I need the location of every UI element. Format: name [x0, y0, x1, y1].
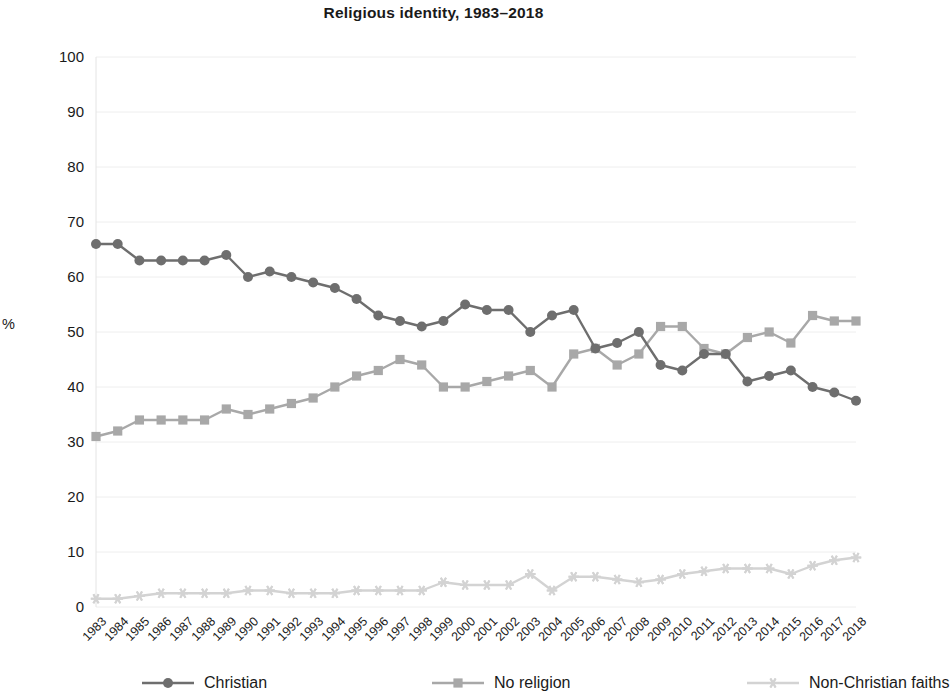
star-marker-icon — [699, 567, 709, 576]
star-marker-icon — [308, 589, 318, 598]
square-marker-icon — [374, 366, 383, 375]
star-marker-icon — [745, 673, 801, 693]
square-marker-icon — [634, 349, 643, 358]
star-marker-icon — [395, 586, 405, 595]
circle-marker-icon — [156, 256, 166, 266]
square-marker-icon — [178, 415, 187, 424]
circle-marker-icon — [677, 366, 687, 376]
circle-marker-icon — [200, 256, 210, 266]
square-marker-icon — [200, 415, 209, 424]
star-marker-icon — [482, 580, 492, 589]
star-marker-icon — [156, 589, 166, 598]
circle-marker-icon — [221, 250, 231, 260]
circle-marker-icon — [482, 305, 492, 315]
series-line — [96, 558, 856, 599]
square-marker-icon — [743, 333, 752, 342]
star-marker-icon — [677, 569, 687, 578]
star-marker-icon — [373, 586, 383, 595]
circle-marker-icon — [460, 300, 470, 310]
circle-marker-icon — [286, 272, 296, 282]
star-marker-icon — [330, 589, 340, 598]
legend-item-christian[interactable]: Christian — [140, 668, 267, 698]
star-marker-icon — [829, 556, 839, 565]
circle-marker-icon — [656, 360, 666, 370]
square-marker-icon — [569, 349, 578, 358]
star-marker-icon — [243, 586, 253, 595]
star-marker-icon — [764, 564, 774, 573]
square-marker-icon — [113, 426, 122, 435]
circle-marker-icon — [525, 327, 535, 337]
square-marker-icon — [287, 399, 296, 408]
circle-marker-icon — [590, 344, 600, 354]
circle-marker-icon — [786, 366, 796, 376]
square-marker-icon — [830, 316, 839, 325]
square-marker-icon — [613, 360, 622, 369]
circle-marker-icon — [634, 327, 644, 337]
circle-marker-icon — [569, 305, 579, 315]
square-marker-icon — [243, 410, 252, 419]
star-marker-icon — [113, 594, 123, 603]
circle-marker-icon — [308, 278, 318, 288]
circle-marker-icon — [808, 382, 818, 392]
gridlines — [96, 57, 856, 607]
square-marker-icon — [851, 316, 860, 325]
square-marker-icon — [91, 432, 100, 441]
star-marker-icon — [438, 578, 448, 587]
square-marker-icon — [352, 371, 361, 380]
series-christian — [91, 239, 861, 406]
series-line — [96, 244, 856, 401]
circle-marker-icon — [504, 305, 514, 315]
star-marker-icon — [807, 561, 817, 570]
legend-label: No religion — [494, 674, 570, 692]
circle-marker-icon — [373, 311, 383, 321]
legend-item-non-christian-faiths[interactable]: Non-Christian faiths — [745, 668, 950, 698]
star-marker-icon — [199, 589, 209, 598]
square-marker-icon — [765, 327, 774, 336]
circle-marker-icon — [140, 673, 196, 693]
circle-marker-icon — [178, 256, 188, 266]
star-marker-icon — [221, 589, 231, 598]
circle-marker-icon — [612, 338, 622, 348]
star-marker-icon — [460, 580, 470, 589]
circle-marker-icon — [265, 267, 275, 277]
star-marker-icon — [786, 569, 796, 578]
square-marker-icon — [395, 355, 404, 364]
square-marker-icon — [453, 678, 462, 687]
legend-item-no-religion[interactable]: No religion — [430, 668, 570, 698]
star-marker-icon — [655, 575, 665, 584]
circle-marker-icon — [438, 316, 448, 326]
star-marker-icon — [721, 564, 731, 573]
circle-marker-icon — [547, 311, 557, 321]
circle-marker-icon — [764, 371, 774, 381]
star-marker-icon — [634, 578, 644, 587]
star-marker-icon — [590, 572, 600, 581]
square-marker-icon — [786, 338, 795, 347]
circle-marker-icon — [330, 283, 340, 293]
circle-marker-icon — [163, 678, 173, 688]
square-marker-icon — [157, 415, 166, 424]
circle-marker-icon — [742, 377, 752, 387]
square-marker-icon — [439, 382, 448, 391]
circle-marker-icon — [395, 316, 405, 326]
square-marker-icon — [482, 377, 491, 386]
square-marker-icon — [330, 382, 339, 391]
star-marker-icon — [265, 586, 275, 595]
circle-marker-icon — [243, 272, 253, 282]
star-marker-icon — [178, 589, 188, 598]
square-marker-icon — [547, 382, 556, 391]
star-marker-icon — [351, 586, 361, 595]
circle-marker-icon — [91, 239, 101, 249]
star-marker-icon — [742, 564, 752, 573]
circle-marker-icon — [829, 388, 839, 398]
square-marker-icon — [678, 322, 687, 331]
square-marker-icon — [309, 393, 318, 402]
circle-marker-icon — [721, 349, 731, 359]
chart-legend: ChristianNo religionNon-Christian faiths — [0, 668, 867, 698]
square-marker-icon — [461, 382, 470, 391]
series-non-christian-faiths — [91, 553, 861, 603]
square-marker-icon — [656, 322, 665, 331]
legend-label: Non-Christian faiths — [809, 674, 950, 692]
square-marker-icon — [504, 371, 513, 380]
